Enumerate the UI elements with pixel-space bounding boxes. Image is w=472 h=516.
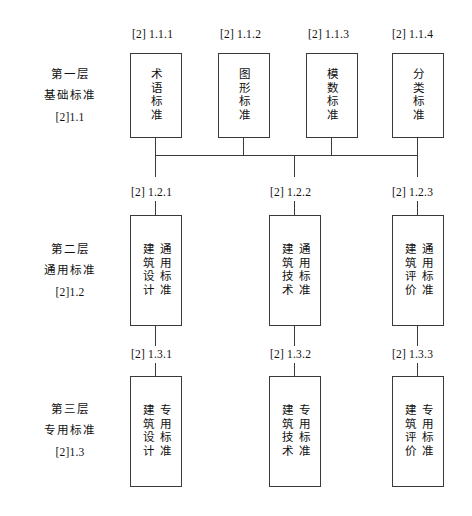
node-general-architectural-technology-secondary: 建筑技术 [279, 243, 294, 297]
tier-3-label-code: [2]1.3 [20, 442, 120, 463]
connector-tier3-node1-stub [155, 363, 156, 376]
node-term-standard[interactable]: 术语标准 [130, 53, 182, 138]
tier-3-node-3-code: [2] 1.3.3 [392, 348, 433, 360]
node-special-architectural-design-secondary: 建筑设计 [140, 404, 155, 458]
node-classification-standard[interactable]: 分类标准 [392, 53, 444, 138]
tier-2-row-label: 第二层 通用标准 [2]1.2 [20, 239, 120, 303]
tier-3-node-2-code: [2] 1.3.2 [270, 348, 311, 360]
connector-tier2-node3-stub [417, 201, 418, 215]
node-special-architectural-design-primary: 专用标准 [158, 404, 173, 458]
connector-tier1-node4-down [417, 138, 418, 156]
tier-1-label-line2: 基础标准 [20, 85, 120, 106]
tier-2-label-line1: 第二层 [20, 239, 120, 260]
node-special-architectural-technology-primary: 专用标准 [297, 404, 312, 458]
node-graphic-standard-primary: 图形标准 [237, 68, 252, 122]
node-graphic-standard[interactable]: 图形标准 [218, 53, 270, 138]
tier-1-node-4-code: [2] 1.1.4 [392, 28, 433, 40]
tier-3-label-line2: 专用标准 [20, 420, 120, 441]
node-general-architectural-technology[interactable]: 通用标准 建筑技术 [269, 215, 321, 326]
connector-bus-to-tier2-node1 [155, 155, 156, 177]
connector-tier2-node1-stub [155, 201, 156, 215]
tier-2-label-code: [2]1.2 [20, 282, 120, 303]
connector-tier2-node1-to-tier3 [155, 326, 156, 346]
node-special-architectural-technology-secondary: 建筑技术 [279, 404, 294, 458]
tier-3-node-1-code: [2] 1.3.1 [131, 348, 172, 360]
connector-tier1-node1-down [155, 138, 156, 156]
connector-tier2-node3-to-tier3 [417, 326, 418, 346]
tier-1-row-label: 第一层 基础标准 [2]1.1 [20, 64, 120, 128]
node-special-architectural-evaluation-primary: 专用标准 [420, 404, 435, 458]
node-general-architectural-evaluation-primary: 通用标准 [420, 243, 435, 297]
tier-2-node-1-code: [2] 1.2.1 [131, 186, 172, 198]
distribution-bus [155, 155, 418, 156]
node-classification-standard-primary: 分类标准 [411, 68, 426, 122]
node-general-architectural-evaluation[interactable]: 通用标准 建筑评价 [392, 215, 444, 326]
connector-tier3-node2-stub [294, 363, 295, 376]
node-special-architectural-evaluation[interactable]: 专用标准 建筑评价 [392, 376, 444, 487]
tier-2-node-2-code: [2] 1.2.2 [270, 186, 311, 198]
node-modular-standard[interactable]: 模数标准 [306, 53, 358, 138]
node-modular-standard-primary: 模数标准 [325, 68, 340, 122]
standards-hierarchy-diagram: 第一层 基础标准 [2]1.1 第二层 通用标准 [2]1.2 第三层 专用标准… [0, 0, 472, 516]
connector-tier1-node2-down [243, 138, 244, 156]
node-special-architectural-technology[interactable]: 专用标准 建筑技术 [269, 376, 321, 487]
connector-tier1-node3-down [331, 138, 332, 156]
tier-3-row-label: 第三层 专用标准 [2]1.3 [20, 399, 120, 463]
node-general-architectural-evaluation-secondary: 建筑评价 [402, 243, 417, 297]
tier-1-label-code: [2]1.1 [20, 107, 120, 128]
connector-tier3-node3-stub [417, 363, 418, 376]
node-special-architectural-design[interactable]: 专用标准 建筑设计 [130, 376, 182, 487]
node-general-architectural-design[interactable]: 通用标准 建筑设计 [130, 215, 182, 326]
node-term-standard-primary: 术语标准 [149, 68, 164, 122]
connector-tier2-node2-stub [294, 201, 295, 215]
node-general-architectural-design-secondary: 建筑设计 [140, 243, 155, 297]
node-general-architectural-design-primary: 通用标准 [158, 243, 173, 297]
tier-1-node-1-code: [2] 1.1.1 [132, 28, 173, 40]
tier-1-node-3-code: [2] 1.1.3 [308, 28, 349, 40]
connector-tier2-node2-to-tier3 [294, 326, 295, 346]
tier-3-label-line1: 第三层 [20, 399, 120, 420]
tier-2-label-line2: 通用标准 [20, 260, 120, 281]
node-special-architectural-evaluation-secondary: 建筑评价 [402, 404, 417, 458]
tier-1-node-2-code: [2] 1.1.2 [220, 28, 261, 40]
tier-1-label-line1: 第一层 [20, 64, 120, 85]
tier-2-node-3-code: [2] 1.2.3 [392, 186, 433, 198]
node-general-architectural-technology-primary: 通用标准 [297, 243, 312, 297]
connector-bus-to-tier2-node2 [294, 155, 295, 177]
connector-bus-to-tier2-node3 [417, 155, 418, 177]
